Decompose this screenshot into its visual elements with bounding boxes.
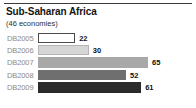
row-label-db2009: DB2009 [7,83,34,92]
bar-db2007 [38,57,148,68]
bar-track-db2005 [38,33,75,44]
bar-chart: DB2005 22 DB2006 30 DB2007 65 DB2008 [0,32,196,94]
bar-value-db2005: 22 [79,34,87,43]
bar-value-db2008: 52 [130,71,138,80]
chart-row: DB2007 65 [0,57,196,69]
chart-subtitle: (46 economies) [6,19,58,28]
chart-title: Sub-Saharan Africa [6,6,97,17]
row-label-db2006: DB2006 [7,46,34,55]
bar-value-db2009: 61 [145,83,153,92]
bar-value-db2007: 65 [152,58,160,67]
row-label-db2008: DB2008 [7,71,34,80]
chart-row: DB2009 61 [0,82,196,94]
bar-track-db2008 [38,70,126,81]
chart-row: DB2006 30 [0,44,196,56]
bar-track-db2007 [38,57,148,68]
bar-db2008 [38,70,126,81]
row-label-db2005: DB2005 [7,34,34,43]
chart-panel: Sub-Saharan Africa (46 economies) DB2005… [0,0,196,108]
chart-row: DB2008 52 [0,69,196,81]
bar-db2005 [38,33,75,44]
bar-db2009 [38,82,141,93]
bar-track-db2006 [38,45,89,56]
row-label-db2007: DB2007 [7,58,34,67]
chart-row: DB2005 22 [0,32,196,44]
bar-value-db2006: 30 [93,46,101,55]
top-divider [4,3,192,4]
bar-db2006 [38,45,89,56]
bar-track-db2009 [38,82,141,93]
